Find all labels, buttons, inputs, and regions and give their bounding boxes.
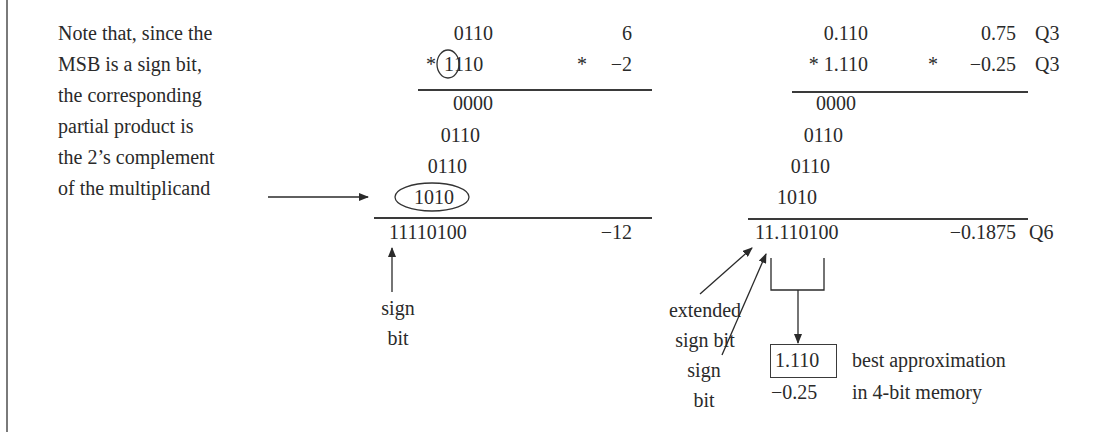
extended-sign-bit-arrow [700,248,752,294]
complement-ellipse [395,183,469,211]
annotation-graphics [0,0,1114,432]
bits-bracket [771,258,824,290]
msb-circle [437,50,459,78]
